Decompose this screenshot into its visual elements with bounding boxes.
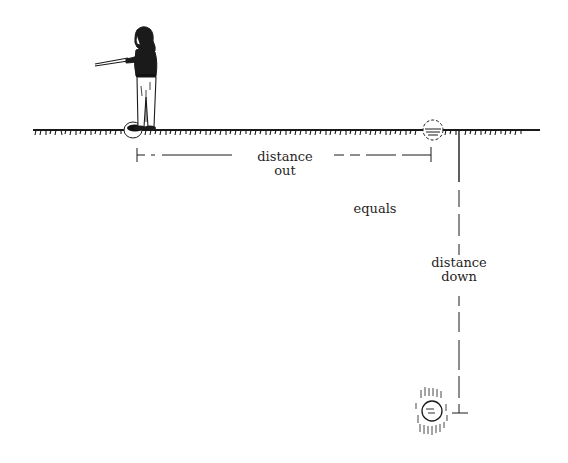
ground-line xyxy=(33,130,540,135)
distance-down-label: distance down xyxy=(426,256,492,284)
diagram-canvas xyxy=(0,0,568,463)
surface-marker xyxy=(423,120,443,140)
target-icon xyxy=(416,387,447,435)
person-icon xyxy=(95,27,157,131)
distance-out-label-line2: out xyxy=(250,164,320,178)
distance-out-label: distance out xyxy=(250,150,320,178)
equals-label: equals xyxy=(350,202,400,216)
distance-down-label-line2: down xyxy=(426,270,492,284)
distance-out-label-line1: distance xyxy=(250,150,320,164)
distance-down-label-line1: distance xyxy=(426,256,492,270)
